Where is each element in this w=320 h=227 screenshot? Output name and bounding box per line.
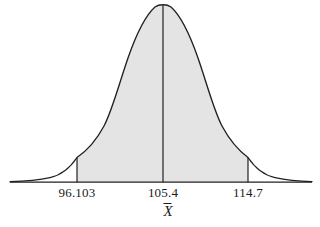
normal-curve-figure: 96.103 105.4 114.7 X: [0, 0, 320, 227]
tick-label-mean: 105.4: [148, 185, 178, 201]
tick-label-upper-bound: 114.7: [233, 185, 263, 201]
tick-label-lower-bound: 96.103: [59, 185, 96, 201]
x-bar-letter: X: [163, 203, 172, 219]
x-bar-symbol: X: [163, 202, 172, 220]
x-axis-label: X: [163, 202, 172, 220]
overbar-icon: [163, 203, 171, 204]
